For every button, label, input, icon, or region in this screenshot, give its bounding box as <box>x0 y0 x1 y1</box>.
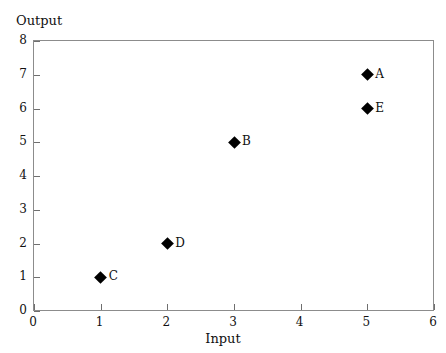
y-tick-5 <box>34 142 40 143</box>
diamond-marker-icon <box>361 102 374 115</box>
diamond-marker-icon <box>361 68 374 81</box>
x-tick-5 <box>367 304 368 310</box>
y-tick-label-3: 3 <box>19 202 27 216</box>
data-point-label-B: B <box>242 134 251 148</box>
y-tick-label-5: 5 <box>19 134 27 148</box>
y-tick-6 <box>34 109 40 110</box>
y-axis-title: Output <box>16 13 62 28</box>
scatter-chart: Output AEBDC 012345678 0123456 Input <box>0 0 446 353</box>
y-tick-label-7: 7 <box>19 67 27 81</box>
y-tick-4 <box>34 176 40 177</box>
x-tick-6 <box>434 304 435 310</box>
x-tick-label-2: 2 <box>163 315 171 329</box>
x-tick-label-6: 6 <box>429 315 437 329</box>
x-axis-tick-labels: 0123456 <box>33 315 434 331</box>
data-point-label-C: C <box>109 269 118 283</box>
x-tick-0 <box>34 304 35 310</box>
x-tick-label-0: 0 <box>29 315 37 329</box>
y-axis-tick-labels: 012345678 <box>12 40 27 311</box>
data-point-label-D: D <box>175 236 185 250</box>
x-tick-label-4: 4 <box>296 315 304 329</box>
y-tick-label-2: 2 <box>19 236 27 250</box>
y-tick-7 <box>34 75 40 76</box>
y-tick-label-0: 0 <box>19 303 27 317</box>
plot-area: AEBDC <box>33 40 434 311</box>
y-tick-0 <box>34 311 40 312</box>
x-tick-label-1: 1 <box>96 315 104 329</box>
y-tick-label-6: 6 <box>19 101 27 115</box>
y-tick-label-8: 8 <box>19 33 27 47</box>
x-tick-1 <box>101 304 102 310</box>
x-tick-label-3: 3 <box>229 315 237 329</box>
x-tick-2 <box>167 304 168 310</box>
diamond-marker-icon <box>94 271 107 284</box>
x-tick-4 <box>301 304 302 310</box>
y-tick-label-1: 1 <box>19 269 27 283</box>
data-point-label-A: A <box>375 67 384 81</box>
y-tick-8 <box>34 41 40 42</box>
y-tick-label-4: 4 <box>19 168 27 182</box>
y-tick-2 <box>34 244 40 245</box>
diamond-marker-icon <box>228 136 241 149</box>
x-tick-3 <box>234 304 235 310</box>
y-tick-1 <box>34 277 40 278</box>
diamond-marker-icon <box>161 237 174 250</box>
y-tick-3 <box>34 210 40 211</box>
data-point-label-E: E <box>375 101 384 115</box>
x-axis-title: Input <box>0 331 446 346</box>
x-tick-label-5: 5 <box>363 315 371 329</box>
